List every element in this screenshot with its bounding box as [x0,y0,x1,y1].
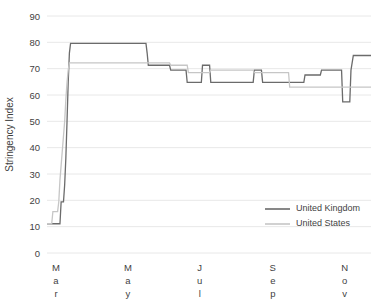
y-tick-label: 70 [29,63,40,74]
y-axis-ticks: 0102030405060708090 [29,11,40,259]
chart-canvas: 0102030405060708090 MarMayJulSepNov Stri… [0,0,377,308]
y-tick-label: 30 [29,169,40,180]
y-tick-label: 60 [29,90,40,101]
y-tick-label: 90 [29,11,40,22]
x-tick-char: a [53,275,59,286]
x-tick-char: N [341,262,348,273]
series-lines [47,43,371,223]
legend-label: United Kingdom [296,203,360,213]
x-tick-label: Jul [197,262,202,299]
x-tick-label: Nov [341,262,348,299]
x-tick-char: p [270,288,275,299]
y-tick-label: 20 [29,195,40,206]
series-line [47,43,371,223]
legend-label: United States [296,218,351,228]
x-axis-ticks: MarMayJulSepNov [52,262,348,299]
stringency-index-chart: 0102030405060708090 MarMayJulSepNov Stri… [0,0,377,308]
x-tick-char: a [125,275,131,286]
x-tick-label: May [124,262,132,299]
x-tick-char: J [197,262,202,273]
x-tick-char: r [54,288,57,299]
y-axis-title-text: Stringency Index [4,97,15,172]
y-tick-label: 40 [29,142,40,153]
y-tick-label: 50 [29,116,40,127]
series-line [47,63,371,224]
x-tick-char: y [125,288,130,299]
x-tick-char: o [342,275,347,286]
x-tick-label: Sep [270,262,276,299]
chart-legend: United KingdomUnited States [265,203,360,228]
x-tick-char: e [270,275,275,286]
x-tick-char: v [342,288,347,299]
x-tick-char: M [52,262,60,273]
x-tick-char: u [197,275,202,286]
y-tick-label: 0 [35,248,40,259]
x-tick-char: l [199,288,201,299]
x-tick-label: Mar [52,262,60,299]
y-axis-title: Stringency Index [4,97,15,172]
y-tick-label: 10 [29,221,40,232]
x-tick-char: M [124,262,132,273]
x-tick-char: S [270,262,276,273]
y-tick-label: 80 [29,37,40,48]
